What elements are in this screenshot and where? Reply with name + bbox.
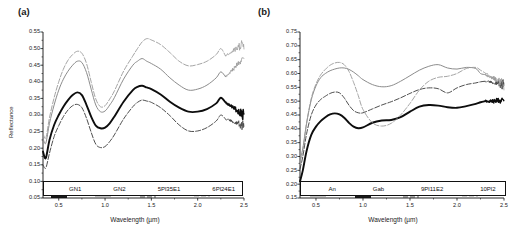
legend-label: 9Pl11E2 <box>421 186 443 192</box>
x-tick-label: 1.0 <box>95 202 115 208</box>
panel-b-legend: AnGab9Pl11E210Pl2 <box>300 181 506 196</box>
legend-entry-Gab[interactable]: Gab <box>355 186 384 192</box>
x-tick-label: 2.5 <box>234 202 254 208</box>
y-tick-label: 0.30 <box>273 153 297 159</box>
y-tick-label: 0.15 <box>16 161 40 167</box>
x-tick-label: 1.0 <box>353 202 373 208</box>
y-tick-label: 0.35 <box>16 95 40 101</box>
series-GN1 <box>43 86 244 159</box>
y-tick-label: 0.50 <box>16 45 40 51</box>
legend-line-swatch <box>51 186 67 192</box>
x-tick-label: 1.5 <box>141 202 161 208</box>
y-tick-label: 0.40 <box>273 125 297 131</box>
y-tick-label: 0.20 <box>273 181 297 187</box>
legend-line-swatch <box>194 186 210 192</box>
legend-line-swatch <box>140 186 156 192</box>
legend-entry-An[interactable]: An <box>310 186 335 192</box>
legend-label: Gab <box>373 186 384 192</box>
x-tick-label: 1.5 <box>400 202 420 208</box>
legend-entry-GN2[interactable]: GN2 <box>95 186 125 192</box>
series-6Pl24E1 <box>43 39 244 139</box>
y-tick-label: 0.65 <box>273 56 297 62</box>
y-tick-label: 0.40 <box>16 78 40 84</box>
legend-label: GN1 <box>69 186 81 192</box>
y-tick-label: 0.20 <box>16 145 40 151</box>
series-GN2 <box>43 58 244 144</box>
legend-entry-GN1[interactable]: GN1 <box>51 186 81 192</box>
legend-entry-9Pl11E2[interactable]: 9Pl11E2 <box>403 186 443 192</box>
legend-label: GN2 <box>113 186 125 192</box>
legend-label: 6Pl24E1 <box>212 186 235 192</box>
series-5Pl35E1 <box>43 100 244 169</box>
legend-label: 5Pl35E1 <box>158 186 181 192</box>
legend-entry-6Pl24E1[interactable]: 6Pl24E1 <box>194 186 235 192</box>
panel-a-legend: GN1GN25Pl35E16Pl24E1 <box>43 181 243 196</box>
x-tick-label: 2.0 <box>447 202 467 208</box>
legend-line-swatch <box>95 186 111 192</box>
legend-label: 10Pl2 <box>480 186 495 192</box>
y-tick-label: 0.30 <box>16 111 40 117</box>
y-tick-label: 0.55 <box>16 28 40 34</box>
x-tick-label: 2.0 <box>188 202 208 208</box>
y-tick-label: 0.55 <box>273 84 297 90</box>
y-tick-label: 0.50 <box>273 98 297 104</box>
y-tick-label: 0.35 <box>273 139 297 145</box>
legend-entry-5Pl35E1[interactable]: 5Pl35E1 <box>140 186 181 192</box>
legend-entry-10Pl2[interactable]: 10Pl2 <box>462 186 495 192</box>
y-tick-label: 0.70 <box>273 42 297 48</box>
y-tick-label: 0.25 <box>273 167 297 173</box>
y-tick-label: 0.45 <box>16 62 40 68</box>
legend-line-swatch <box>403 186 419 192</box>
y-tick-label: 0.05 <box>16 194 40 200</box>
y-tick-label: 0.60 <box>273 70 297 76</box>
y-tick-label: 0.45 <box>273 111 297 117</box>
y-tick-label: 0.75 <box>273 28 297 34</box>
legend-line-swatch <box>310 186 326 192</box>
y-tick-label: 0.15 <box>273 194 297 200</box>
legend-label: An <box>328 186 335 192</box>
series-9Pl11E2 <box>300 80 504 169</box>
series-Gab <box>300 98 504 181</box>
y-tick-label: 0.10 <box>16 178 40 184</box>
legend-line-swatch <box>355 186 371 192</box>
x-tick-label: 0.5 <box>306 202 326 208</box>
series-An <box>300 65 504 160</box>
x-tick-label: 2.5 <box>494 202 514 208</box>
legend-line-swatch <box>462 186 478 192</box>
x-tick-label: 0.5 <box>49 202 69 208</box>
y-tick-label: 0.25 <box>16 128 40 134</box>
figure-root: (a) Reflectance Wavelength (µm) GN1GN25P… <box>0 0 516 231</box>
